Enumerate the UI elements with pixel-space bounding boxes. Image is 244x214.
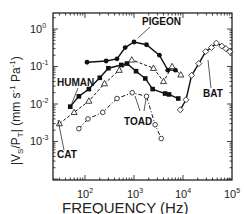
data-point-toad	[130, 90, 135, 95]
data-point-toad	[100, 110, 105, 115]
data-point-human	[134, 69, 139, 74]
data-point-human	[143, 76, 148, 81]
x-tick-label-100000: 105	[224, 187, 240, 200]
series-bat	[177, 40, 232, 113]
y-tick-label-0.001: 10-3	[30, 134, 49, 147]
y-tick-label-0.01: 10-2	[30, 97, 49, 110]
data-point-bat	[189, 72, 195, 78]
label-bat: BAT	[203, 88, 223, 99]
data-point-human	[97, 75, 102, 80]
data-point-cat	[169, 63, 175, 68]
data-point-toad	[159, 136, 164, 141]
label-pigeon: PIGEON	[142, 16, 181, 27]
y-axis-title: |VS/PT| (mm s-1 Pa-1)	[8, 56, 25, 165]
data-point-toad	[86, 117, 91, 122]
data-point-human	[106, 66, 111, 71]
data-point-human	[77, 94, 82, 99]
data-point-pigeon	[144, 42, 149, 47]
chart: 102 103 104 105 100 10-1 10-2 10-3 |VS/P…	[0, 0, 244, 214]
data-point-human	[176, 96, 181, 101]
data-point-human	[163, 91, 168, 96]
data-point-pigeon	[104, 59, 109, 64]
data-point-bat	[183, 97, 189, 103]
label-human: HUMAN	[57, 77, 94, 88]
y-tick-label-0.1: 10-1	[30, 59, 49, 72]
y-tick-label-1: 100	[30, 22, 46, 35]
data-point-cat	[71, 109, 77, 114]
x-axis-title: FREQUENCY (Hz)	[62, 199, 188, 214]
data-point-bat	[177, 107, 183, 113]
label-cat: CAT	[57, 149, 77, 160]
data-point-bat	[196, 61, 202, 67]
data-point-toad	[115, 96, 120, 101]
data-point-human	[150, 87, 155, 92]
data-point-pigeon	[115, 56, 120, 61]
data-point-cat	[116, 67, 122, 72]
y-tick-labels: 100 10-1 10-2 10-3	[30, 22, 49, 147]
data-point-pigeon	[132, 40, 137, 45]
data-point-human	[167, 92, 172, 97]
data-point-pigeon	[157, 53, 162, 58]
data-point-toad	[144, 94, 149, 99]
data-point-cat	[129, 57, 135, 62]
data-point-pigeon	[85, 60, 90, 65]
data-point-toad	[153, 122, 158, 127]
data-point-cat	[161, 78, 167, 83]
data-point-cat	[101, 80, 107, 85]
data-point-cat	[56, 120, 62, 125]
data-point-pigeon	[123, 45, 128, 50]
label-toad: TOAD	[124, 116, 152, 127]
data-point-toad	[77, 126, 82, 131]
